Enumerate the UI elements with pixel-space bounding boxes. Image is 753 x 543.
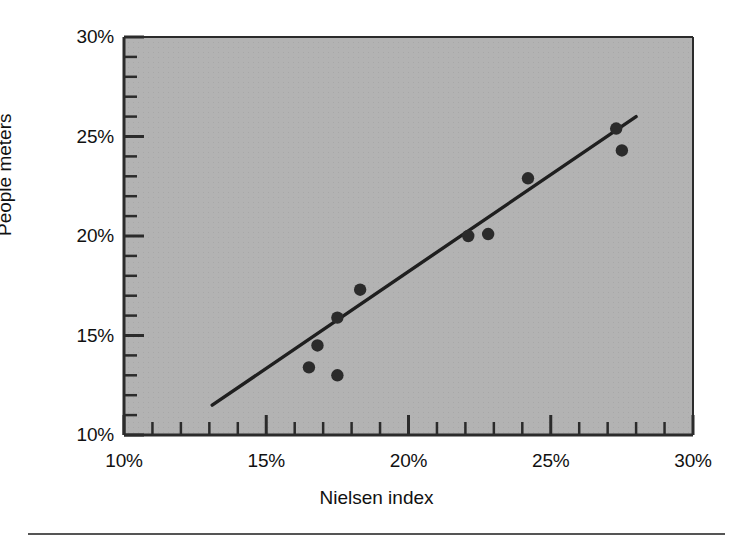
data-point (522, 172, 534, 184)
data-point (303, 361, 315, 373)
y-axis-title: People meters (0, 113, 16, 236)
data-points-group (303, 122, 628, 381)
x-tick-label: 30% (674, 450, 711, 472)
trend-line-segment (212, 117, 636, 406)
x-tick-label: 25% (532, 450, 569, 472)
figure-container: 10%15%20%25%30%10%15%20%25%30% People me… (0, 0, 753, 543)
x-axis-title: Nielsen index (0, 487, 753, 509)
axes-group (124, 37, 693, 435)
data-point (610, 122, 622, 134)
x-tick-label: 15% (248, 450, 285, 472)
y-tick-label: 20% (44, 225, 114, 247)
y-tick-label: 10% (44, 424, 114, 446)
data-point (331, 311, 343, 323)
data-point (331, 369, 343, 381)
data-point (462, 230, 474, 242)
y-tick-label: 30% (44, 26, 114, 48)
data-point (616, 144, 628, 156)
data-point (354, 284, 366, 296)
x-tick-label: 10% (105, 450, 142, 472)
trend-line (212, 117, 636, 406)
y-tick-label: 15% (44, 325, 114, 347)
data-point (311, 339, 323, 351)
data-point (482, 228, 494, 240)
y-tick-label: 25% (44, 126, 114, 148)
x-tick-label: 20% (390, 450, 427, 472)
footer-divider (28, 533, 725, 535)
